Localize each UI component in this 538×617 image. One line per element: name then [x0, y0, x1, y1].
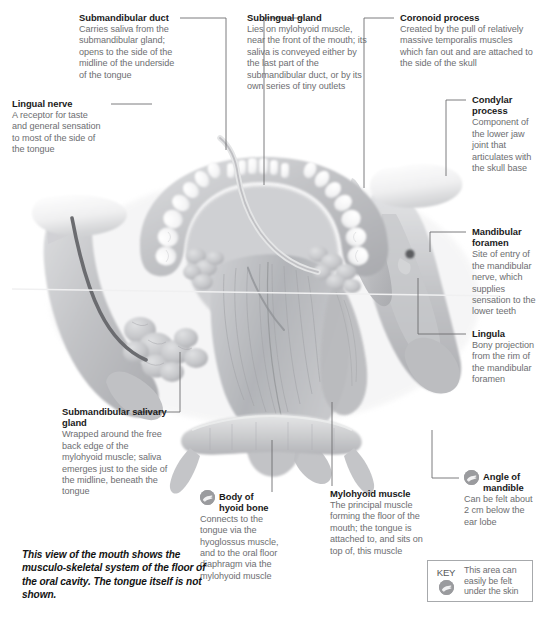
key-legend-box: KEY This area can easily be felt under t…	[427, 560, 533, 602]
submandibular-salivary-gland	[123, 317, 208, 382]
annotation-mylohyoid-muscle: Mylohyoid muscle The principal muscle fo…	[330, 488, 426, 557]
label-body: Lies on mylohyoid muscle, near the front…	[247, 24, 367, 92]
label-body: Site of entry of the mandibular nerve, w…	[472, 249, 536, 317]
submandibular-duct-core	[220, 138, 318, 272]
annotation-mandibular-foramen: Mandibular foramen Site of entry of the …	[472, 226, 536, 318]
leader-mandibular-foramen	[430, 232, 466, 252]
lingual-nerve-cord	[72, 218, 146, 360]
mylohyoid-muscle	[211, 254, 368, 443]
left-mandibular-ramus	[32, 195, 163, 420]
submandibular-gland-lobule-detail	[132, 322, 192, 365]
touch-hand-icon	[200, 490, 215, 505]
dental-arch	[140, 157, 388, 330]
annotation-lingual-nerve: Lingual nerve A receptor for taste and g…	[12, 98, 104, 156]
label-body: Wrapped around the free back edge of the…	[62, 429, 170, 497]
leader-submandibular-salivary-gland	[134, 352, 180, 412]
label-body: A receptor for taste and general sensati…	[12, 110, 104, 156]
label-title: Lingula	[472, 328, 536, 339]
label-body: Bony projection from the rim of the mand…	[472, 340, 536, 386]
label-title: Mylohyoid muscle	[330, 488, 426, 499]
label-title: Angle of mandible	[483, 470, 538, 493]
touch-hand-icon	[439, 580, 454, 595]
annotation-angle-of-mandible: Angle of mandible Can be felt about 2 cm…	[464, 470, 538, 528]
submandibular-duct-tube	[220, 138, 318, 272]
label-body: The principal muscle forming the floor o…	[330, 500, 426, 557]
annotation-sublingual-gland: Sublingual gland Lies on mylohyoid muscl…	[247, 12, 367, 92]
leader-angle-of-mandible	[432, 430, 459, 478]
right-mandibular-ramus	[346, 164, 463, 393]
sublingual-gland	[183, 246, 361, 293]
duct-to-gland	[248, 268, 284, 330]
leader-coronoid-process	[364, 18, 394, 188]
hyoid-bone	[170, 414, 374, 494]
label-body: Carries saliva from the submandibular gl…	[79, 24, 181, 81]
label-title: Mandibular foramen	[472, 226, 536, 249]
annotation-lingula: Lingula Bony projection from the rim of …	[472, 328, 536, 386]
suprahyoid-muscles	[246, 420, 332, 484]
label-title: Body of hyoid bone	[219, 490, 273, 513]
plate-horizon-line	[12, 289, 500, 296]
key-word: KEY	[437, 567, 456, 578]
touch-hand-icon	[464, 470, 479, 485]
leader-submandibular-duct	[180, 18, 226, 150]
label-title: Lingual nerve	[12, 98, 104, 109]
figure-caption: This view of the mouth shows the musculo…	[22, 548, 222, 602]
label-title: Coronoid process	[400, 12, 536, 23]
label-body: Created by the pull of relatively massiv…	[400, 24, 536, 70]
label-title: Sublingual gland	[247, 12, 367, 23]
label-title: Submandibular duct	[79, 12, 181, 23]
label-body: Component of the lower jaw joint that ar…	[472, 117, 536, 174]
leader-condylar-process	[446, 100, 466, 176]
annotation-coronoid-process: Coronoid process Created by the pull of …	[400, 12, 536, 70]
annotation-submandibular-salivary-gland: Submandibular salivary gland Wrapped aro…	[62, 406, 170, 498]
label-body: Can be felt about 2 cm below the ear lob…	[464, 494, 538, 528]
teeth	[155, 158, 370, 267]
label-title: Condylar process	[472, 94, 536, 117]
label-title: Submandibular salivary gland	[62, 406, 170, 429]
figure-canvas: Submandibular duct Carries saliva from t…	[0, 0, 538, 617]
annotation-condylar-process: Condylar process Component of the lower …	[472, 94, 536, 174]
leader-lingula	[418, 278, 466, 334]
key-text: This area can easily be felt under the s…	[464, 565, 528, 597]
annotation-submandibular-duct: Submandibular duct Carries saliva from t…	[79, 12, 181, 81]
